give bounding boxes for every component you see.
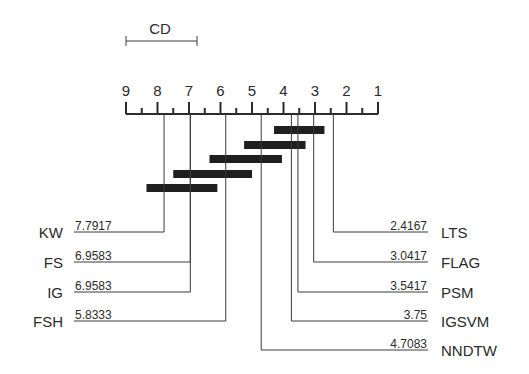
rank-value: 3.0417 — [390, 249, 427, 263]
rank-value: 6.9583 — [75, 249, 112, 263]
method-name: IG — [47, 284, 63, 301]
method-name: FS — [44, 254, 63, 271]
method-name: FLAG — [441, 254, 480, 271]
clique-bar — [173, 170, 252, 178]
clique-bar — [209, 155, 281, 163]
rank-axis: 987654321 — [122, 82, 382, 114]
method-name: LTS — [441, 224, 467, 241]
method-name: KW — [39, 224, 64, 241]
tick-label: 8 — [153, 82, 161, 99]
rank-value: 7.7917 — [75, 219, 112, 233]
tick-label: 6 — [216, 82, 224, 99]
method-name: IGSVM — [441, 313, 489, 330]
clique-bar — [274, 126, 324, 134]
tick-label: 9 — [122, 82, 130, 99]
tick-label: 1 — [374, 82, 382, 99]
rank-value: 4.7083 — [390, 337, 427, 351]
clique-bar — [244, 141, 305, 149]
rank-value: 6.9583 — [75, 279, 112, 293]
method-name: NNDTW — [441, 342, 498, 359]
tick-label: 5 — [248, 82, 256, 99]
rank-value: 3.75 — [404, 308, 428, 322]
cd-scale: CD — [126, 20, 197, 46]
tick-label: 4 — [279, 82, 287, 99]
rank-value: 3.5417 — [390, 279, 427, 293]
tick-label: 2 — [342, 82, 350, 99]
tick-label: 3 — [311, 82, 319, 99]
cd-label: CD — [149, 20, 171, 37]
tick-label: 7 — [185, 82, 193, 99]
cd-diagram: CD 987654321 7.7917KW6.9583FS6.9583IG5.8… — [0, 0, 529, 374]
clique-bar — [146, 184, 217, 192]
method-labels: 7.7917KW6.9583FS6.9583IG5.8333FSH2.4167L… — [33, 114, 498, 359]
rank-value: 5.8333 — [75, 308, 112, 322]
rank-value: 2.4167 — [390, 219, 427, 233]
method-name: FSH — [33, 313, 63, 330]
method-name: PSM — [441, 284, 474, 301]
